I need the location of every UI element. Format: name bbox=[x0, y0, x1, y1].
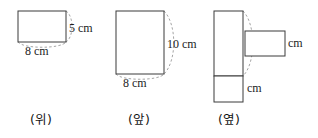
front-view-height-label: 10 cm bbox=[167, 38, 197, 50]
side-view-bottom-unit-label: cm bbox=[247, 82, 262, 94]
side-view-right-unit-label: cm bbox=[288, 37, 303, 49]
front-view-group bbox=[116, 11, 174, 79]
side-view-main-rect bbox=[214, 11, 243, 76]
orthographic-views-diagram: 5 cm 8 cm 10 cm 8 cm cm cm (위) (앞) (옆) bbox=[0, 0, 318, 138]
top-view-group bbox=[18, 11, 72, 47]
caption-front-view: (앞) bbox=[128, 114, 150, 127]
top-view-rect bbox=[18, 11, 66, 42]
side-view-bottom-rect bbox=[214, 76, 243, 102]
front-view-width-label: 8 cm bbox=[123, 77, 147, 89]
top-view-width-label: 8 cm bbox=[25, 45, 49, 57]
caption-top-view: (위) bbox=[30, 114, 52, 127]
side-view-right-rect bbox=[245, 31, 285, 56]
front-view-rect bbox=[116, 11, 164, 74]
top-view-height-label: 5 cm bbox=[69, 22, 93, 34]
caption-side-view: (옆) bbox=[218, 114, 240, 127]
